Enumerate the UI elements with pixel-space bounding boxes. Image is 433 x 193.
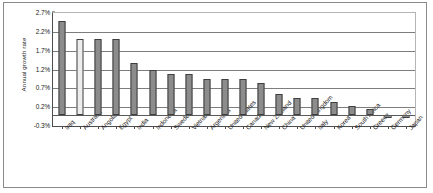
x-axis-label-slot: Sweden — [161, 127, 179, 189]
x-axis-tick-mark — [388, 126, 389, 129]
bar-slot — [125, 13, 143, 126]
x-axis-tick-mark — [261, 126, 262, 129]
y-axis-tick-label: 2.2% — [36, 27, 50, 34]
x-axis-label-slot: United Kingdom — [287, 127, 305, 189]
bar-slot — [180, 13, 198, 126]
bar-slot — [198, 13, 216, 126]
bar-slot — [107, 13, 125, 126]
bar-slot — [71, 13, 89, 126]
bar[interactable] — [185, 74, 192, 115]
bar[interactable] — [149, 70, 156, 115]
x-axis-label-slot: South Africa — [342, 127, 360, 189]
bar[interactable] — [95, 39, 102, 114]
x-axis-tick-mark — [189, 126, 190, 129]
x-axis-tick-mark — [406, 126, 407, 129]
bar[interactable] — [258, 83, 265, 115]
bar[interactable] — [167, 74, 174, 115]
bar-slot — [306, 13, 324, 126]
bar-slot — [270, 13, 288, 126]
bar-slot — [397, 13, 415, 126]
bar-slot — [53, 13, 71, 126]
bar-series — [53, 13, 415, 126]
bar[interactable] — [221, 79, 228, 115]
bar[interactable] — [113, 39, 120, 114]
bar-slot — [89, 13, 107, 126]
y-axis-tick-label: 2.7% — [36, 9, 50, 16]
x-axis-label-slot: Canada — [233, 127, 251, 189]
chart-frame: Annual growth rate 2.7%2.2%1.7%1.2%0.7%0… — [3, 2, 427, 188]
bar-slot — [325, 13, 343, 126]
x-axis-label-slot: New Zealand — [251, 127, 269, 189]
bar-slot — [216, 13, 234, 126]
y-axis-tick-label: 0.7% — [36, 84, 50, 91]
y-axis-tick-label: -0.3% — [34, 122, 50, 129]
x-axis-label-slot: Japan — [396, 127, 414, 189]
x-axis-label-slot: Greece — [360, 127, 378, 189]
bar[interactable] — [312, 98, 319, 115]
x-axis-label-slot: Germany — [378, 127, 396, 189]
x-axis-label-slot: India — [124, 127, 142, 189]
x-axis-label-slot: United States — [215, 127, 233, 189]
bar-slot — [162, 13, 180, 126]
bar[interactable] — [77, 39, 84, 114]
bar[interactable] — [348, 106, 355, 115]
x-axis-label-slot: Iraq — [52, 127, 70, 189]
bar-slot — [234, 13, 252, 126]
x-axis-tick-mark — [171, 126, 172, 129]
x-axis-tick-mark — [98, 126, 99, 129]
zero-baseline — [53, 115, 415, 116]
bar[interactable] — [294, 98, 301, 115]
bar-slot — [343, 13, 361, 126]
y-axis-tick-label: 1.2% — [36, 65, 50, 72]
x-axis-tick-mark — [207, 126, 208, 129]
x-axis-label-slot: Vietnam — [179, 127, 197, 189]
x-axis-tick-mark — [153, 126, 154, 129]
bar-slot — [361, 13, 379, 126]
x-axis-label-slot: Indonesia — [143, 127, 161, 189]
x-axis-label-slot: Egypt — [106, 127, 124, 189]
x-axis-tick-mark — [334, 126, 335, 129]
bar-slot — [379, 13, 397, 126]
x-axis-tick-mark — [62, 126, 63, 129]
bar-slot — [252, 13, 270, 126]
x-axis-category-labels: IraqAustraliaAngolaEgyptIndiaIndonesiaSw… — [52, 127, 414, 189]
x-axis-tick-mark — [297, 126, 298, 129]
bar-slot — [144, 13, 162, 126]
x-axis-tick-mark — [134, 126, 135, 129]
x-axis-label-slot: Angola — [88, 127, 106, 189]
x-axis-tick-mark — [225, 126, 226, 129]
bar[interactable] — [59, 21, 66, 115]
bar[interactable] — [330, 102, 337, 115]
x-axis-label-slot: China — [269, 127, 287, 189]
x-axis-tick-mark — [80, 126, 81, 129]
x-axis-label-slot: Argentina — [197, 127, 215, 189]
x-axis-label-slot: Australia — [70, 127, 88, 189]
y-axis-tick-labels: 2.7%2.2%1.7%1.2%0.7%0.2%-0.3% — [22, 3, 52, 189]
x-axis-tick-mark — [116, 126, 117, 129]
x-axis-tick-mark — [279, 126, 280, 129]
x-axis-tick-mark — [243, 126, 244, 129]
y-axis-tick-label: 0.2% — [36, 103, 50, 110]
x-axis-tick-mark — [370, 126, 371, 129]
x-axis-label-slot: Italy — [305, 127, 323, 189]
x-axis-tick-mark — [315, 126, 316, 129]
x-axis-tick-mark — [352, 126, 353, 129]
bar[interactable] — [240, 79, 247, 115]
y-axis-tick-label: 1.7% — [36, 46, 50, 53]
bar-slot — [288, 13, 306, 126]
x-axis-label-slot: Korea — [324, 127, 342, 189]
bar[interactable] — [203, 79, 210, 115]
bar[interactable] — [131, 63, 138, 115]
bar[interactable] — [276, 94, 283, 115]
plot-area — [52, 12, 416, 127]
